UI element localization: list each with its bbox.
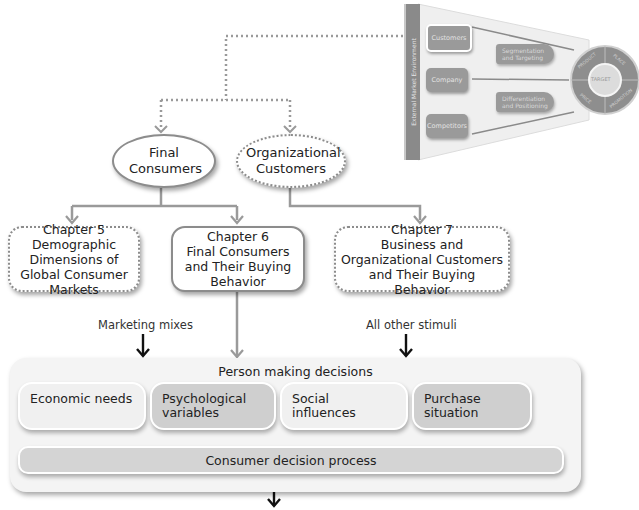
- chapter-5-body: Demographic Dimensions of Global Consume…: [10, 237, 138, 297]
- person-making-decisions-panel: Person making decisions Economic needs P…: [10, 358, 581, 492]
- person-making-decisions-title: Person making decisions: [10, 364, 581, 379]
- marketing-strategy-funnel: External Market Environment Customers Co…: [404, 0, 633, 165]
- all-other-stimuli-label: All other stimuli: [366, 318, 457, 332]
- factor-psychological-variables: Psychological variables: [150, 382, 276, 430]
- chapter-7-box: Chapter 7 Business and Organizational Cu…: [334, 226, 510, 292]
- marketing-mix-circle: TARGET PRODUCT PLACE PROMOTION PRICE: [569, 44, 633, 116]
- chapter-6-title: Chapter 6: [173, 229, 303, 244]
- factor-social-influences: Social influences: [280, 382, 408, 430]
- final-consumers-oval: Final Consumers: [112, 134, 216, 188]
- funnel-box-company: Company: [426, 68, 468, 92]
- funnel-box-customers: Customers: [426, 24, 472, 52]
- differentiation-positioning-label: Differentiation and Positioning: [496, 92, 554, 112]
- chapter-7-body: Business and Organizational Customers an…: [336, 237, 508, 297]
- chapter-7-title: Chapter 7: [336, 222, 508, 237]
- factor-economic-needs: Economic needs: [18, 382, 146, 430]
- organizational-customers-label: Organizational Customers: [246, 145, 336, 177]
- final-consumers-label: Final Consumers: [129, 145, 199, 177]
- external-environment-label: External Market Environment: [410, 38, 417, 126]
- funnel-box-competitors: Competitors: [426, 114, 468, 138]
- consumer-decision-process-bar: Consumer decision process: [18, 446, 564, 474]
- factor-purchase-situation: Purchase situation: [412, 382, 532, 430]
- external-environment-bar: External Market Environment: [404, 4, 420, 160]
- organizational-customers-oval: Organizational Customers: [236, 134, 346, 188]
- chapter-6-body: Final Consumers and Their Buying Behavio…: [173, 244, 303, 289]
- chapter-5-box: Chapter 5 Demographic Dimensions of Glob…: [8, 226, 140, 292]
- target-label: TARGET: [591, 76, 611, 82]
- segmentation-targeting-label: Segmentation and Targeting: [496, 44, 554, 64]
- marketing-mixes-label: Marketing mixes: [98, 318, 193, 332]
- chapter-5-title: Chapter 5: [10, 222, 138, 237]
- chapter-6-box: Chapter 6 Final Consumers and Their Buyi…: [171, 226, 305, 292]
